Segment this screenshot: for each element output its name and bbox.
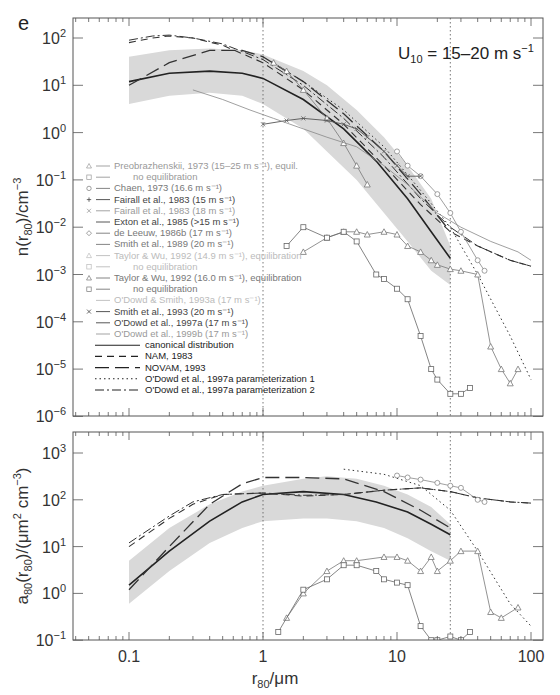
circle-marker	[418, 477, 423, 482]
square-icon	[87, 287, 91, 291]
legend-item: NOVAM, 1993	[95, 362, 206, 373]
square-marker	[324, 577, 329, 582]
uncertainty-band	[129, 476, 450, 604]
legend-label: no equilibration	[133, 171, 197, 182]
legend-item: O'Dowd et al., 1997a (17 m s⁻¹)	[96, 317, 248, 328]
legend-label: Exton et al., 1985 (>15 m s⁻¹)	[114, 216, 239, 227]
circle-marker	[448, 483, 453, 488]
wind-speed-annotation: U10 = 15–20 m s−1	[398, 42, 534, 65]
legend-item: O'Dowd et al., 1997a parameterization 2	[95, 384, 315, 395]
square-marker	[374, 569, 379, 574]
legend-item: Smith et al., 1993 (20 m s⁻¹)	[87, 306, 234, 317]
legend-label: O'Dowd et al., 1997a parameterization 2	[145, 384, 315, 395]
square-marker	[284, 244, 289, 249]
triangle-marker	[515, 366, 521, 372]
y-tick-label: 103	[42, 442, 66, 462]
series-line	[287, 551, 518, 618]
triangle-marker	[405, 558, 411, 564]
y-axis-title: n(r80)/cm−3	[11, 178, 34, 257]
legend-item: Chaen, 1973 (16.6 m s⁻¹)	[87, 182, 222, 193]
square-icon	[87, 175, 91, 179]
x-tick-label: 100	[518, 648, 545, 665]
legend-label: no equilibration	[133, 283, 197, 294]
y-tick-label: 102	[42, 27, 66, 47]
x-tick-label: 1	[259, 648, 268, 665]
legend-item: Fairall et al., 1983 (15 m s⁻¹)	[87, 194, 235, 205]
y-tick-label: 101	[42, 536, 66, 556]
y-tick-label: 10−3	[36, 264, 66, 284]
square-marker	[395, 286, 400, 291]
triangle-marker	[507, 380, 513, 386]
legend-label: O'Dowd et al., 1997a parameterization 1	[145, 373, 315, 384]
circle-marker	[482, 268, 487, 273]
x-tick-labels: 0.1110100	[118, 648, 545, 665]
square-marker	[405, 297, 410, 302]
square-marker	[341, 229, 346, 234]
y-tick-label: 100	[42, 582, 66, 602]
triangle-marker	[498, 366, 504, 372]
circle-marker	[395, 473, 400, 478]
area-distribution-plot: 10310210110010−1 0.1110100 a80(r80)/(μm2…	[11, 432, 544, 690]
square-marker	[395, 580, 400, 585]
square-marker	[354, 563, 359, 568]
circle-marker	[475, 258, 480, 263]
square-marker	[418, 624, 423, 629]
legend-item: Taylor & Wu, 1992 (14.9 m s⁻¹), equilibr…	[87, 250, 302, 261]
y-axis-title: a80(r80)/(μm2 cm−3)	[11, 467, 34, 604]
triangle-marker	[488, 609, 494, 615]
legend-label: Taylor & Wu, 1992 (14.9 m s⁻¹), equilibr…	[114, 250, 302, 261]
legend-label: Smith et al., 1989 (20 m s⁻¹)	[114, 238, 234, 249]
square-marker	[429, 367, 434, 372]
triangle-icon	[87, 276, 92, 281]
square-marker	[354, 239, 359, 244]
series-line	[278, 565, 470, 640]
triangle-marker	[381, 229, 387, 235]
circle-marker	[458, 229, 463, 234]
square-marker	[301, 587, 306, 592]
legend-label: NOVAM, 1993	[145, 362, 206, 373]
plus-icon	[87, 197, 91, 201]
x-axis-title: r80/μm	[252, 669, 299, 690]
legend-label: O'Dowd & Smith, 1993a (17 m s⁻¹)	[114, 294, 261, 305]
square-marker	[467, 629, 472, 634]
figure: 10210110010−110−210−310−410−510−6 Preobr…	[0, 0, 560, 695]
legend-label: NAM, 1983	[145, 350, 193, 361]
legend-label: Fairall et al., 1983 (18 m s⁻¹)	[114, 205, 235, 216]
y-tick-labels: 10310210110010−1	[36, 442, 66, 649]
legend-item: O'Dowd et al., 1999b (17 m s⁻¹)	[96, 328, 248, 339]
diamond-icon	[87, 231, 92, 236]
square-marker	[405, 583, 410, 588]
legend-item: no equilibration	[87, 283, 198, 294]
square-marker	[324, 235, 329, 240]
y-tick-label: 10−1	[36, 169, 66, 189]
circle-marker	[405, 163, 410, 168]
size-distribution-plot: 10210110010−110−210−310−410−510−6 Preobr…	[11, 18, 543, 425]
square-marker	[374, 272, 379, 277]
legend-label: O'Dowd et al., 1997a (17 m s⁻¹)	[114, 317, 248, 328]
square-marker	[341, 563, 346, 568]
y-tick-label: 10−4	[36, 311, 66, 331]
circle-marker	[435, 480, 440, 485]
square-marker	[448, 634, 453, 639]
y-tick-label: 10−1	[36, 629, 66, 649]
legend-label: Fairall et al., 1983 (15 m s⁻¹)	[114, 194, 235, 205]
y-tick-label: 100	[42, 122, 66, 142]
y-tick-label: 102	[42, 489, 66, 509]
legend-label: Preobrazhenskii, 1973 (15–25 m s⁻¹), equ…	[114, 160, 298, 171]
square-marker	[448, 391, 453, 396]
legend-label: Chaen, 1973 (16.6 m s⁻¹)	[114, 182, 222, 193]
triangle-marker	[515, 604, 521, 610]
legend-label: no equilibration	[133, 261, 197, 272]
square-marker	[458, 391, 463, 396]
triangle-marker	[498, 615, 504, 621]
legend-item: no equilibration	[87, 261, 198, 272]
legend-label: canonical distribution	[145, 339, 234, 350]
legend-item: Fairall et al., 1983 (18 m s⁻¹)	[87, 205, 235, 216]
circle-marker	[458, 485, 463, 490]
square-marker	[382, 577, 387, 582]
triangle-marker	[324, 568, 330, 574]
circle-marker	[448, 210, 453, 215]
legend-item: no equilibration	[87, 171, 198, 182]
shaded-band	[129, 476, 450, 604]
legend-item: canonical distribution	[95, 339, 234, 350]
